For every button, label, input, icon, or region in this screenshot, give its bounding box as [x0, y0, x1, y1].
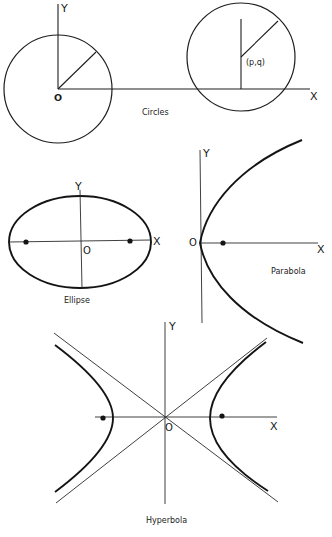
circles-origin-label: O	[54, 92, 62, 103]
circle-origin-radius	[58, 52, 96, 89]
hyperbola-asymptote-rising	[56, 338, 267, 503]
hyperbola-right-branch	[210, 342, 268, 491]
ellipse-x-label: X	[153, 235, 161, 248]
circles-panel: Y X O (p,q) Circles	[4, 2, 318, 143]
parabola-x-label: X	[317, 243, 325, 256]
ellipse-caption: Ellipse	[64, 296, 90, 305]
circle-center-label: (p,q)	[246, 58, 265, 67]
hyperbola-caption: Hyperbola	[146, 516, 187, 525]
hyperbola-y-label: Y	[168, 320, 176, 333]
parabola-y-label: Y	[202, 147, 210, 160]
hyperbola-panel: Y X O Hyperbola	[54, 320, 278, 525]
ellipse-focus-left	[23, 239, 28, 244]
parabola-curve	[200, 140, 303, 343]
hyperbola-x-label: X	[270, 420, 278, 433]
parabola-focus	[220, 240, 225, 245]
circles-caption: Circles	[142, 108, 169, 117]
parabola-origin-label: O	[189, 237, 197, 248]
parabola-caption: Parabola	[271, 267, 306, 276]
ellipse-panel: Y X O Ellipse	[9, 180, 161, 305]
ellipse-origin-label: O	[83, 245, 91, 256]
ellipse-focus-right	[127, 238, 132, 243]
circle-pq-radius	[241, 21, 278, 57]
hyperbola-focus-left	[100, 415, 105, 420]
parabola-panel: Y X O Parabola	[189, 140, 325, 343]
hyperbola-focus-right	[219, 413, 224, 418]
ellipse-y-label: Y	[74, 180, 82, 193]
conic-sections-diagram: Y X O (p,q) Circles Y X O Ellipse Y X O …	[0, 0, 332, 537]
circles-x-label: X	[310, 90, 318, 103]
hyperbola-origin-label: O	[165, 422, 173, 433]
ellipse-y-axis	[80, 190, 82, 288]
circles-y-label: Y	[60, 2, 68, 15]
